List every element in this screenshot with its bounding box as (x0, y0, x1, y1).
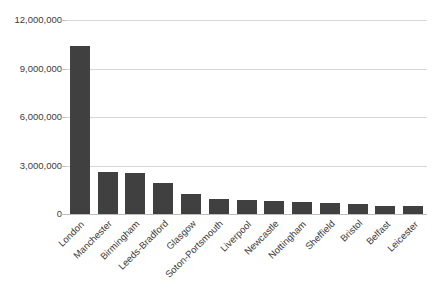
bar (70, 46, 90, 214)
bar (375, 206, 395, 214)
x-axis-tick-label: Bristol (338, 218, 364, 244)
bar-chart: 12,000,0009,000,0006,000,0003,000,0000 L… (0, 0, 443, 300)
y-axis-tick-label: 12,000,000 (0, 15, 62, 25)
bars-layer (66, 20, 427, 214)
x-axis-tick-label: Sheffield (303, 218, 337, 252)
bar (181, 194, 201, 214)
x-axis-tick-label-wrap: Bristol (338, 218, 364, 244)
bar (209, 199, 229, 214)
bar (98, 172, 118, 214)
y-axis-tick-label: 9,000,000 (0, 64, 62, 74)
y-axis-tick-label: 0 (0, 209, 62, 219)
bar (264, 201, 284, 214)
bar (153, 183, 173, 214)
x-axis-tick-label-wrap: Sheffield (303, 218, 337, 252)
y-axis-tick-label: 6,000,000 (0, 112, 62, 122)
y-axis-tick-label: 3,000,000 (0, 161, 62, 171)
bar (403, 206, 423, 214)
x-axis-labels: LondonManchesterBirminghamLeeds-Bradford… (66, 214, 427, 300)
bar (237, 200, 257, 214)
y-axis-labels: 12,000,0009,000,0006,000,0003,000,0000 (0, 0, 62, 300)
bar (292, 202, 312, 214)
bar (320, 203, 340, 214)
bar (348, 204, 368, 214)
bar (125, 173, 145, 214)
